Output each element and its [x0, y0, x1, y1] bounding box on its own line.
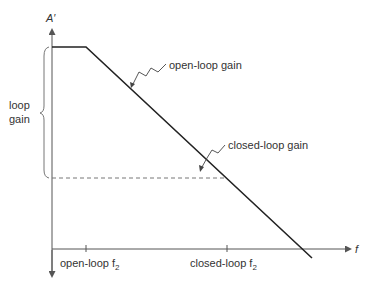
closed-loop-gain-label: closed-loop gain [228, 139, 308, 151]
y-axis-label: A′ [45, 12, 56, 24]
closed-loop-gain-arrow-icon [199, 165, 204, 172]
open-loop-gain-curve [52, 47, 312, 258]
closed-loop-gain-leader [202, 145, 225, 167]
loop-gain-label-line1: loop [9, 99, 30, 111]
x-axis-label: f [355, 243, 359, 255]
loop-gain-brace [40, 47, 49, 178]
open-loop-gain-label: open-loop gain [169, 59, 242, 71]
open-loop-gain-leader [133, 64, 166, 84]
tick-label-open-loop-f2: open-loop f2 [60, 257, 120, 272]
open-loop-gain-arrow-icon [130, 82, 135, 88]
tick-label-closed-loop-f2: closed-loop f2 [190, 257, 257, 272]
gain-frequency-diagram: A′ f open-loop f2 closed-loop f2 loop ga… [0, 0, 379, 287]
loop-gain-label-line2: gain [9, 113, 30, 125]
